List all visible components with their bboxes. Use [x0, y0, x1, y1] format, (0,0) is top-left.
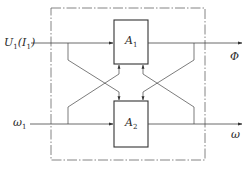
coupling-phi-to-a2 — [143, 43, 194, 100]
coupling-w-to-a1 — [143, 65, 194, 124]
u-symbol: U — [4, 36, 13, 49]
diagram-canvas — [0, 0, 248, 174]
i-subscript: 1 — [26, 43, 30, 51]
a1-subscript: 1 — [133, 41, 137, 49]
output-w-label: ω — [231, 129, 240, 140]
output-phi-label: Φ — [230, 51, 239, 62]
block-a2-label: A2 — [125, 117, 137, 131]
a1-symbol: A — [125, 34, 133, 47]
a2-symbol: A — [125, 116, 133, 129]
u-subscript: 1 — [13, 43, 17, 51]
phi-symbol: Φ — [230, 50, 239, 63]
input-w1-label: ω1 — [13, 117, 26, 131]
omega-symbol: ω — [231, 128, 240, 141]
coupling-u1-to-a2 — [68, 43, 119, 100]
block-a1-label: A1 — [125, 35, 137, 49]
a2-subscript: 2 — [133, 123, 137, 131]
coupling-w1-to-a1 — [68, 65, 119, 124]
omega1-subscript: 1 — [22, 123, 26, 131]
input-u1-label: U1(I1) — [4, 37, 35, 51]
omega1-symbol: ω — [13, 116, 22, 129]
